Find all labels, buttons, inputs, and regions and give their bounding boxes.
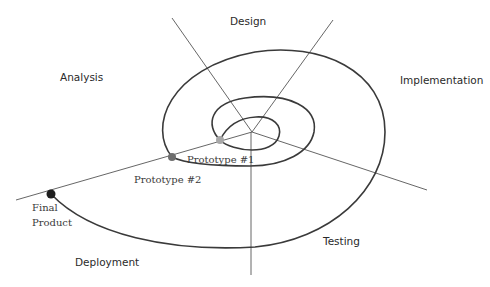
final-product-label-line2: Product bbox=[32, 217, 72, 228]
testing-axis bbox=[252, 132, 427, 190]
spiral-model-diagram: Analysis Design Implementation Testing D… bbox=[0, 0, 490, 287]
spiral-inner-loop bbox=[220, 117, 280, 150]
prototype-1-label: Prototype #1 bbox=[187, 154, 254, 165]
final-product-label-line1: Final bbox=[32, 202, 58, 213]
analysis-axis bbox=[172, 18, 252, 132]
design-axis bbox=[252, 20, 333, 132]
final-product-dot bbox=[47, 190, 56, 199]
phase-label-deployment: Deployment bbox=[75, 256, 139, 268]
prototype-2-label: Prototype #2 bbox=[134, 174, 201, 185]
phase-label-design: Design bbox=[230, 15, 266, 27]
prototype-2-dot bbox=[168, 153, 176, 161]
phase-label-analysis: Analysis bbox=[60, 71, 103, 83]
phase-label-testing: Testing bbox=[322, 235, 360, 247]
prototype-1-dot bbox=[216, 136, 224, 144]
phase-label-implementation: Implementation bbox=[400, 74, 483, 86]
